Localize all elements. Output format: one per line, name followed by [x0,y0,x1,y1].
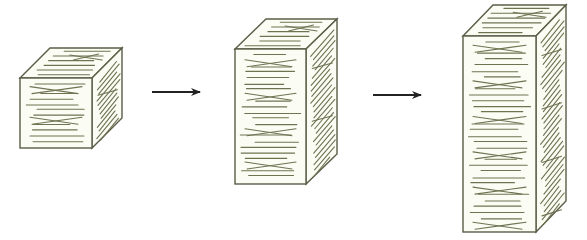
block-medium [235,19,337,184]
front-face [235,49,306,184]
figure-stage [0,0,587,240]
front-face [20,78,92,148]
block-large [463,5,566,232]
block-small [20,48,122,148]
front-face [463,36,536,232]
growth-diagram [0,0,587,240]
